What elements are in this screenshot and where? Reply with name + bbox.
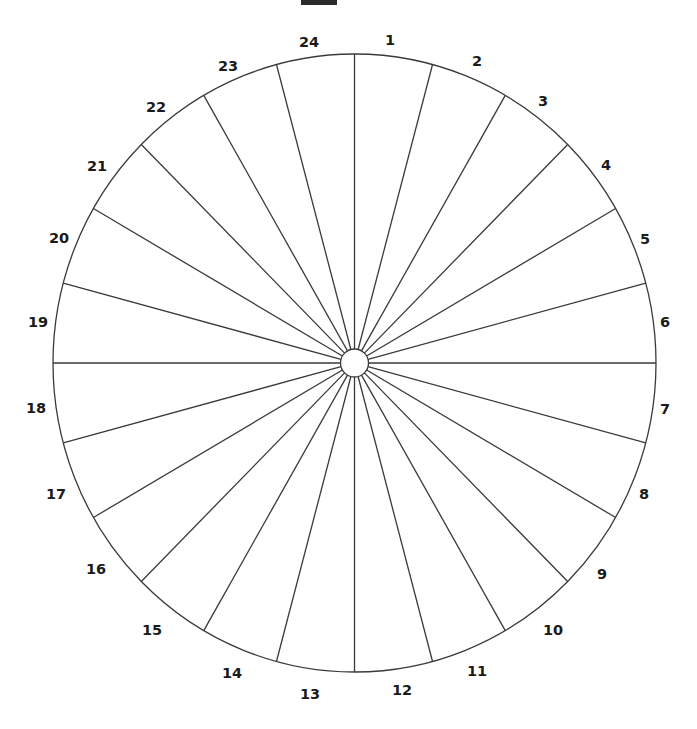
sector-label-8: 8 [639, 487, 649, 502]
wheel-geometry [53, 54, 656, 672]
sector-label-10: 10 [543, 623, 563, 638]
sector-label-3: 3 [538, 94, 548, 109]
sector-label-17: 17 [46, 487, 66, 502]
sector-label-15: 15 [142, 623, 162, 638]
sector-label-1: 1 [385, 33, 395, 48]
sector-label-4: 4 [601, 158, 611, 173]
sector-label-21: 21 [87, 159, 107, 174]
sector-label-24: 24 [299, 35, 319, 50]
sector-label-19: 19 [28, 315, 48, 330]
sector-label-22: 22 [146, 100, 166, 115]
sector-label-5: 5 [640, 232, 650, 247]
wheel-diagram-canvas: 123456789101112131415161718192021222324 [0, 0, 697, 729]
sector-label-12: 12 [392, 683, 412, 698]
sector-label-18: 18 [26, 401, 46, 416]
sector-label-23: 23 [218, 59, 238, 74]
sector-label-6: 6 [660, 315, 670, 330]
sector-label-16: 16 [86, 562, 106, 577]
sector-label-14: 14 [222, 666, 242, 681]
sector-label-2: 2 [472, 54, 482, 69]
sector-label-11: 11 [467, 664, 487, 679]
twenty-four-sector-wheel [0, 0, 697, 729]
sector-label-7: 7 [660, 402, 670, 417]
sector-label-9: 9 [597, 567, 607, 582]
sector-label-20: 20 [49, 231, 69, 246]
sector-label-13: 13 [300, 687, 320, 702]
center-hub-circle [341, 349, 369, 377]
